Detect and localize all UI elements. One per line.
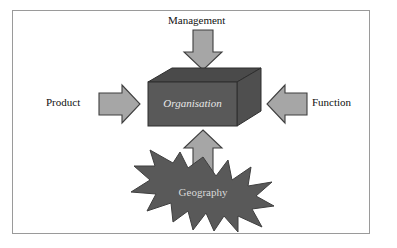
label-management: Management xyxy=(168,14,225,27)
arrow-left-function xyxy=(267,85,307,123)
label-organisation: Organisation xyxy=(148,97,237,110)
arrow-right-product xyxy=(99,85,140,123)
diagram-canvas: Management Product Function Organisation… xyxy=(0,0,397,248)
arrow-down-management xyxy=(184,30,222,70)
diagram-shapes xyxy=(0,0,397,248)
label-geography: Geography xyxy=(143,186,263,199)
label-product: Product xyxy=(46,96,80,109)
label-function: Function xyxy=(312,96,351,109)
